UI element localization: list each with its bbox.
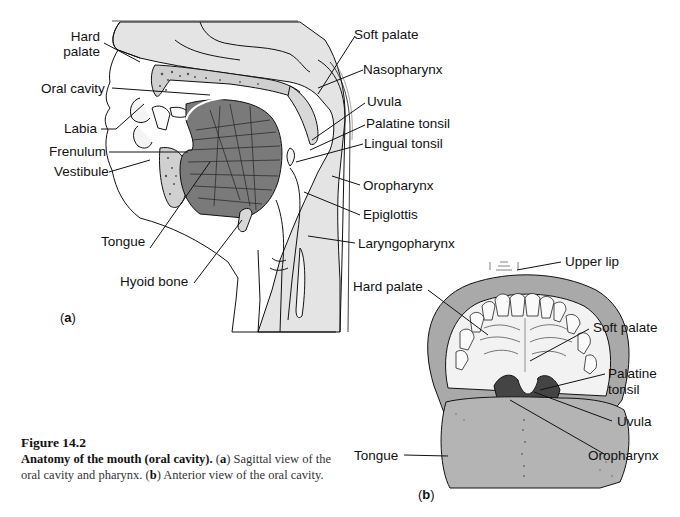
panel-b-tag: (b) [418, 487, 435, 502]
label-uvula-a: Uvula [367, 94, 402, 109]
caption-b-tag: b [150, 468, 157, 482]
label-hard-palate-a-line2: palate [63, 44, 100, 59]
label-oropharynx-b: Oropharynx [588, 448, 659, 463]
label-uvula-b: Uvula [617, 414, 652, 429]
label-palatine-tonsil-b-line2: tonsil [608, 382, 640, 397]
label-palatine-tonsil-a: Palatine tonsil [366, 116, 450, 131]
panel-a-letter: a [64, 310, 71, 325]
label-laryngopharynx: Laryngopharynx [358, 236, 455, 251]
label-hard-palate-a-line1: Hard [71, 29, 100, 44]
label-labia: Labia [64, 121, 97, 136]
label-hyoid-bone: Hyoid bone [120, 274, 188, 289]
figure-title: Anatomy of the mouth (oral cavity). [21, 452, 213, 466]
figure-caption: Figure 14.2 Anatomy of the mouth (oral c… [21, 435, 341, 483]
figure-number: Figure 14.2 [21, 435, 341, 451]
label-epiglottis: Epiglottis [363, 207, 418, 222]
label-tongue-a: Tongue [101, 234, 145, 249]
label-oropharynx-a: Oropharynx [363, 178, 434, 193]
label-frenulum: Frenulum [49, 144, 106, 159]
label-vestibule: Vestibule [54, 164, 109, 179]
label-tongue-b: Tongue [354, 448, 398, 463]
label-palatine-tonsil-b-line1: Palatine [608, 366, 657, 381]
caption-a-tag: a [220, 452, 226, 466]
label-soft-palate-b: Soft palate [593, 320, 658, 335]
label-lingual-tonsil: Lingual tonsil [364, 136, 443, 151]
panel-b-letter: b [422, 487, 430, 502]
label-oral-cavity: Oral cavity [41, 81, 105, 96]
panel-a-tag: (a) [60, 310, 76, 325]
label-upper-lip: Upper lip [565, 254, 619, 269]
label-palatine-tonsil-b: Palatine tonsil [608, 366, 657, 398]
label-soft-palate-a: Soft palate [354, 27, 419, 42]
label-hard-palate-b: Hard palate [353, 279, 423, 294]
label-nasopharynx: Nasopharynx [363, 62, 443, 77]
caption-b-text: Anterior view of the oral cavity. [161, 468, 324, 482]
label-hard-palate-a: Hard palate [52, 29, 100, 59]
